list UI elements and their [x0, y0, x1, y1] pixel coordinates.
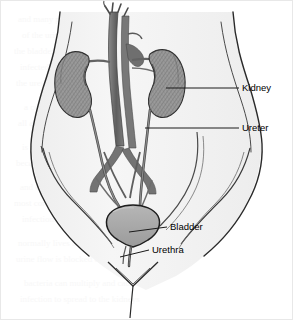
- urinary-tract-figure: and many people who suffer from the pain…: [0, 0, 293, 320]
- label-ureter: Ureter: [242, 122, 268, 133]
- label-urethra: Urethra: [152, 244, 184, 255]
- anatomy-illustration: and many people who suffer from the pain…: [0, 0, 293, 320]
- label-kidney: Kidney: [242, 82, 271, 93]
- label-bladder: Bladder: [170, 221, 203, 232]
- svg-text:infection to spread to the kid: infection to spread to the kidneys: [20, 294, 140, 304]
